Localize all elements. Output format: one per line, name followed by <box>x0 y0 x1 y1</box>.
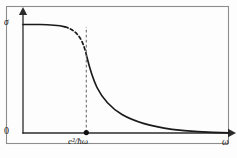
plot-canvas <box>0 0 237 158</box>
y-axis-label: σ <box>4 18 9 28</box>
curve-decay-segment <box>87 57 229 133</box>
critical-point-label-text: e²/ħω <box>68 137 88 146</box>
critical-point-label: e²/ħω <box>68 137 88 146</box>
origin-label: 0 <box>4 126 9 136</box>
x-axis-label: ω <box>222 138 229 148</box>
curve-plateau-segment <box>23 25 65 27</box>
y-axis-arrowhead <box>19 7 27 15</box>
curve-transition-dashed-segment <box>65 27 87 57</box>
critical-point-marker <box>84 130 89 135</box>
figure-frame <box>7 7 229 144</box>
figure-container: 0 σ ω e²/ħω <box>0 0 237 158</box>
